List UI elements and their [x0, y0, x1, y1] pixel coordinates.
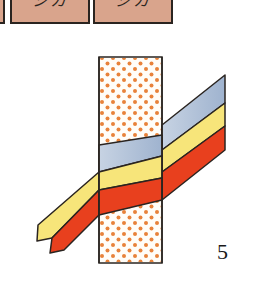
figure-number: 5	[217, 239, 228, 265]
